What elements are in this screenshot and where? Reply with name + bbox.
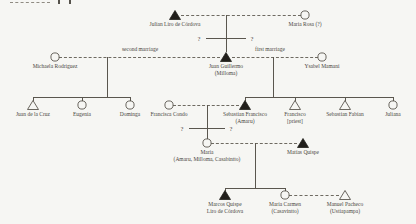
kinship-diagram-page: second marriage first marriage ? ? ? ? J… [0,0,416,224]
person-name: Sebastian Francisco (Amaru) [223,111,267,125]
marriage-line-julian-maria [181,15,301,16]
sibling-line-bottom [225,188,285,189]
second-marriage-label: second marriage [122,46,158,52]
marriage-line-carmen-manuel [289,195,339,196]
descent-line-gen1 [226,15,227,52]
remnant-mark [69,0,71,4]
male-filled-symbol-icon [220,52,233,63]
male-filled-symbol-icon [297,138,310,149]
person-name: Eugenia [73,111,91,118]
person-name: María (Amaru, Milloma, Casabintto) [174,149,241,163]
unknown-union-line-gen1 [206,38,246,39]
marriage-line-first [232,57,318,58]
female-symbol-icon [202,138,212,148]
female-symbol-icon [164,100,174,110]
person-name: Maria Rosa (?) [289,21,322,28]
sibling-line-right [245,97,393,98]
female-symbol-icon [317,52,327,62]
person-name: Francisco [priest] [284,111,305,125]
person-name: Juan de la Cruz [16,111,50,118]
person-name: Juliana [385,111,401,118]
descent-line-maria-matias [255,143,256,188]
person-name: Julian Liro de Córdova [150,21,201,28]
descent-line-second-marriage [107,57,108,97]
female-symbol-icon [50,52,60,62]
person-name: Dominga [120,111,140,118]
male-symbol-icon [289,100,302,111]
descent-line-francisca-union [207,105,208,139]
female-symbol-icon [77,100,87,110]
first-marriage-label: first marriage [255,46,285,52]
question-mark-gen1-left: ? [198,35,201,42]
remnant-dash [10,2,50,3]
person-name: Francisca Condo [150,111,187,118]
remnant-mark [58,0,60,4]
male-symbol-icon [339,190,352,201]
female-symbol-icon [300,10,310,20]
male-symbol-icon [339,100,352,111]
person-name: Marcos Quispe Liro de Córdova [207,201,243,215]
male-symbol-icon [27,100,40,111]
unknown-union-line-mid [189,128,225,129]
female-symbol-icon [125,100,135,110]
person-name: Michaela Rodriguez [33,63,78,70]
female-symbol-icon [280,190,290,200]
female-symbol-icon [388,100,398,110]
marriage-line-francisca-sebastian [173,105,239,106]
person-name: Manuel Pacheco (Ustiapampa) [327,201,364,215]
marriage-line-maria-matias [211,143,297,144]
male-filled-symbol-icon [239,100,252,111]
person-name: Matías Quispe [287,149,319,156]
person-name: Ysabel Mamani [305,63,340,70]
person-name: Sebastian Fabian [326,111,363,118]
question-mark-gen1-right: ? [251,35,254,42]
marriage-line-second [59,57,220,58]
person-name: María Carmen (Casavintto) [269,201,301,215]
male-filled-symbol-icon [169,10,182,21]
descent-line-first-marriage [273,57,274,97]
male-filled-symbol-icon [219,190,232,201]
question-mark-mid-right: ? [230,125,233,132]
person-name: Juan Guillermo (Milloma) [209,63,243,77]
question-mark-mid-left: ? [181,125,184,132]
